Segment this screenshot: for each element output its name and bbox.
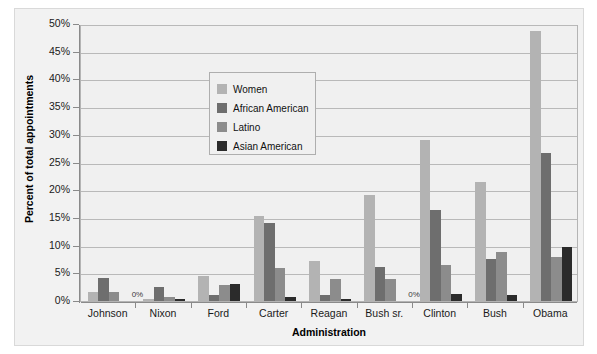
bar	[507, 295, 518, 301]
gridline	[81, 136, 577, 137]
y-axis-tick-label: 5%	[26, 267, 70, 278]
bar	[551, 257, 562, 301]
gridline	[81, 80, 577, 81]
bar	[275, 268, 286, 301]
bar	[164, 297, 175, 301]
y-axis-tick-label: 20%	[26, 184, 70, 195]
y-axis-tick-label: 50%	[26, 18, 70, 29]
legend-item[interactable]: Women	[217, 80, 315, 98]
legend-item-label: Latino	[233, 122, 260, 133]
bar	[364, 195, 375, 301]
x-axis-tick	[412, 303, 413, 308]
bar	[264, 223, 275, 301]
bar	[496, 252, 507, 301]
gridline	[81, 219, 577, 220]
bar	[341, 299, 352, 301]
chart-container: Percent of total appointments 0%5%10%15%…	[0, 0, 597, 354]
legend-item[interactable]: Latino	[217, 118, 315, 136]
legend-swatch-icon	[217, 103, 227, 113]
legend-item[interactable]: African American	[217, 99, 315, 117]
bar	[154, 287, 165, 301]
x-axis-category-label: Clinton	[412, 307, 467, 319]
gridline	[81, 191, 577, 192]
bar-value-label: 0%	[408, 290, 420, 299]
x-axis-tick	[523, 303, 524, 308]
bar	[285, 297, 296, 301]
x-axis-category-label: Ford	[191, 307, 246, 319]
bar	[441, 265, 452, 301]
y-axis-tick-label: 40%	[26, 73, 70, 84]
x-axis-category-label: Bush sr.	[357, 307, 412, 319]
bar	[143, 299, 154, 301]
bar	[230, 284, 241, 301]
x-axis-tick	[301, 303, 302, 308]
gridline	[81, 108, 577, 109]
y-axis-title: Percent of total appointments	[23, 39, 35, 259]
bar	[530, 31, 541, 301]
bar	[219, 285, 230, 301]
legend-item-label: African American	[233, 103, 309, 114]
y-axis-tick-label: 30%	[26, 129, 70, 140]
x-axis-category-label: Obama	[523, 307, 578, 319]
y-axis-tick-label: 10%	[26, 240, 70, 251]
gridline	[81, 25, 577, 26]
x-axis-title: Administration	[80, 326, 578, 338]
bar	[198, 276, 209, 301]
bar	[541, 153, 552, 301]
x-axis-tick	[357, 303, 358, 308]
gridline	[81, 164, 577, 165]
bar	[209, 295, 220, 301]
bar	[88, 292, 99, 301]
legend-item-label: Women	[233, 84, 267, 95]
x-axis-tick	[246, 303, 247, 308]
bar	[430, 210, 441, 301]
bar	[420, 140, 431, 301]
bar	[98, 278, 109, 301]
x-axis-category-label: Carter	[246, 307, 301, 319]
bar	[320, 295, 331, 301]
bar	[486, 259, 497, 301]
legend-swatch-icon	[217, 122, 227, 132]
legend: WomenAfrican AmericanLatinoAsian America…	[209, 72, 316, 155]
y-axis-tick-label: 25%	[26, 157, 70, 168]
x-axis-category-label: Bush	[467, 307, 522, 319]
legend-item-label: Asian American	[233, 141, 302, 152]
x-axis-category-label: Reagan	[301, 307, 356, 319]
x-axis-tick	[467, 303, 468, 308]
bar-value-label: 0%	[132, 290, 144, 299]
y-axis-tick-label: 0%	[26, 295, 70, 306]
legend-item[interactable]: Asian American	[217, 137, 315, 155]
x-axis-category-label: Johnson	[80, 307, 135, 319]
legend-swatch-icon	[217, 141, 227, 151]
x-axis-category-label: Nixon	[135, 307, 190, 319]
bar	[451, 294, 462, 301]
bar	[175, 299, 186, 301]
x-axis-tick	[135, 303, 136, 308]
x-axis-tick	[191, 303, 192, 308]
bar	[309, 261, 320, 301]
y-axis-tick-label: 35%	[26, 101, 70, 112]
y-axis-tick-label: 15%	[26, 212, 70, 223]
bar	[475, 182, 486, 301]
gridline	[81, 302, 577, 303]
gridline	[81, 53, 577, 54]
bar	[330, 279, 341, 301]
legend-swatch-icon	[217, 84, 227, 94]
bar	[562, 247, 573, 301]
plot-area: 0%0% WomenAfrican AmericanLatinoAsian Am…	[80, 25, 578, 302]
bar	[375, 267, 386, 301]
bar	[385, 279, 396, 301]
bar	[254, 216, 265, 301]
y-axis-tick-label: 45%	[26, 46, 70, 57]
bar	[109, 292, 120, 301]
gridline	[81, 247, 577, 248]
